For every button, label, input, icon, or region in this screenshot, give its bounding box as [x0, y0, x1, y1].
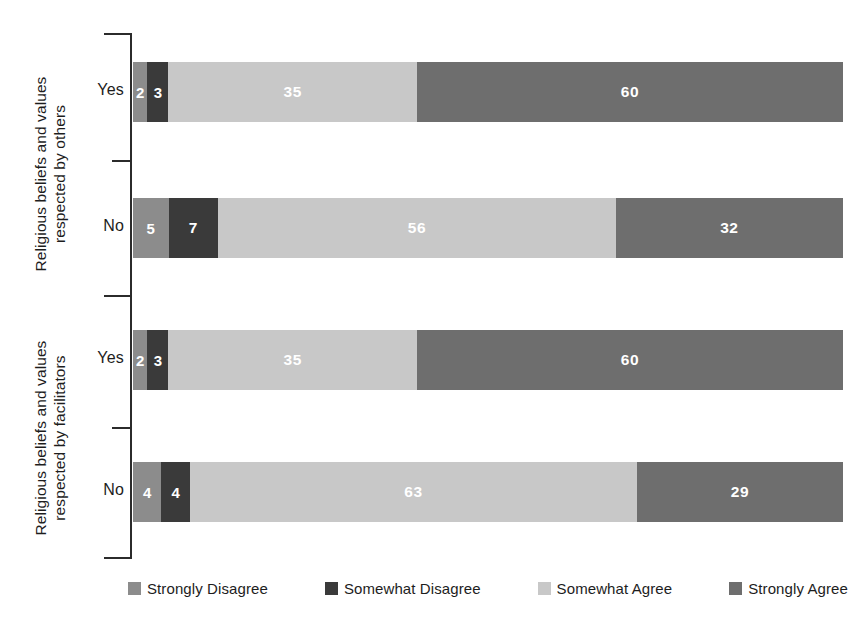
bar-segment-value: 63 [404, 483, 422, 501]
bar-segment: 4 [161, 462, 189, 522]
legend-item[interactable]: Somewhat Disagree [325, 580, 481, 597]
axis-spine-others [130, 33, 132, 296]
category-label-yes-facilitators-wrap: Yes [58, 349, 124, 371]
bar-segment: 35 [168, 62, 417, 122]
bar-segment-value: 4 [143, 484, 151, 501]
bar-segment-value: 4 [171, 484, 179, 501]
bar-segment: 32 [616, 198, 843, 258]
category-label-no-facilitators-wrap: No [58, 481, 124, 503]
axis-tick-minor-others [112, 160, 132, 162]
bar-segment: 63 [190, 462, 637, 522]
bar-segment-value: 3 [154, 84, 162, 101]
legend-item[interactable]: Strongly Agree [729, 580, 848, 597]
bar-yes-facilitators: 233560 [133, 330, 843, 390]
bar-segment: 3 [147, 330, 168, 390]
bar-segment-value: 2 [136, 84, 144, 101]
legend-label: Somewhat Agree [557, 580, 673, 597]
bar-segment: 29 [637, 462, 843, 522]
bar-segment: 4 [133, 462, 161, 522]
bar-segment-value: 35 [284, 351, 302, 369]
bar-segment: 60 [417, 330, 843, 390]
axis-tick-major-bottom [104, 557, 132, 559]
bar-segment: 3 [147, 62, 168, 122]
bar-segment-value: 7 [189, 219, 198, 237]
category-label-yes-others: Yes [68, 81, 124, 99]
bar-segment-value: 5 [147, 220, 155, 237]
category-label-no-facilitators: No [68, 481, 124, 499]
axis-tick-minor-facilitators [112, 427, 132, 429]
bar-segment-value: 60 [621, 83, 639, 101]
legend-swatch-icon [538, 582, 551, 595]
bar-segment-value: 3 [154, 352, 162, 369]
legend-label: Somewhat Disagree [344, 580, 481, 597]
category-label-no-others-wrap: No [58, 217, 124, 239]
bar-segment: 35 [168, 330, 417, 390]
bar-segment-value: 32 [720, 219, 738, 237]
category-label-yes-facilitators: Yes [68, 349, 124, 367]
legend-item[interactable]: Strongly Disagree [128, 580, 268, 597]
bar-segment-value: 56 [408, 219, 426, 237]
axis-tick-major-middle [104, 295, 132, 297]
bar-segment-value: 2 [136, 352, 144, 369]
bar-no-others: 575632 [133, 198, 843, 258]
category-label-yes-others-wrap: Yes [58, 81, 124, 103]
legend-label: Strongly Agree [748, 580, 848, 597]
axis-tick-major-top [104, 33, 132, 35]
legend-label: Strongly Disagree [147, 580, 268, 597]
bar-segment: 56 [218, 198, 616, 258]
legend-swatch-icon [128, 582, 141, 595]
bar-yes-others: 233560 [133, 62, 843, 122]
bar-segment-value: 60 [621, 351, 639, 369]
chart-legend: Strongly DisagreeSomewhat DisagreeSomewh… [128, 580, 848, 597]
group-axis-label-facilitators: Religious beliefs and values respected b… [31, 306, 73, 570]
category-label-no-others: No [68, 217, 124, 235]
bar-segment-value: 29 [731, 483, 749, 501]
bar-segment: 2 [133, 330, 147, 390]
bar-segment-value: 35 [284, 83, 302, 101]
legend-swatch-icon [325, 582, 338, 595]
bar-no-facilitators: 446329 [133, 462, 843, 522]
bar-segment: 60 [417, 62, 843, 122]
bar-segment: 5 [133, 198, 169, 258]
bar-segment: 2 [133, 62, 147, 122]
stacked-bar-chart: Religious beliefs and values respected b… [0, 0, 864, 622]
legend-item[interactable]: Somewhat Agree [538, 580, 673, 597]
bar-segment: 7 [169, 198, 219, 258]
legend-swatch-icon [729, 582, 742, 595]
